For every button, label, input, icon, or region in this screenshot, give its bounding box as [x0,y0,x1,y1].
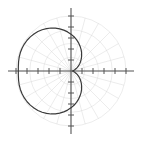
polar-grid-spoke-13 [18,71,71,85]
polar-grid-spoke-3 [71,32,110,71]
polar-grid-spoke-19 [71,71,85,124]
polar-plot-canvas [0,0,141,142]
polar-grid-spoke-8 [44,23,72,71]
polar-grid-spoke-11 [18,57,71,71]
polar-grid-spoke-21 [71,71,110,110]
polar-grid-spoke-20 [71,71,99,119]
polar-plot-figure: Polar Plot [0,0,141,142]
polar-grid-spoke-10 [23,44,71,72]
polar-grid-spoke-4 [71,23,99,71]
polar-grid-spoke-17 [57,71,71,124]
polar-grid-spoke-5 [71,18,85,71]
polar-grid-spoke-9 [32,32,71,71]
polar-grid-spoke-14 [23,71,71,99]
cartesian-axes [8,8,134,134]
polar-grid-spoke-16 [44,71,72,119]
polar-grid-spoke-15 [32,71,71,110]
polar-grid-spoke-7 [57,18,71,71]
